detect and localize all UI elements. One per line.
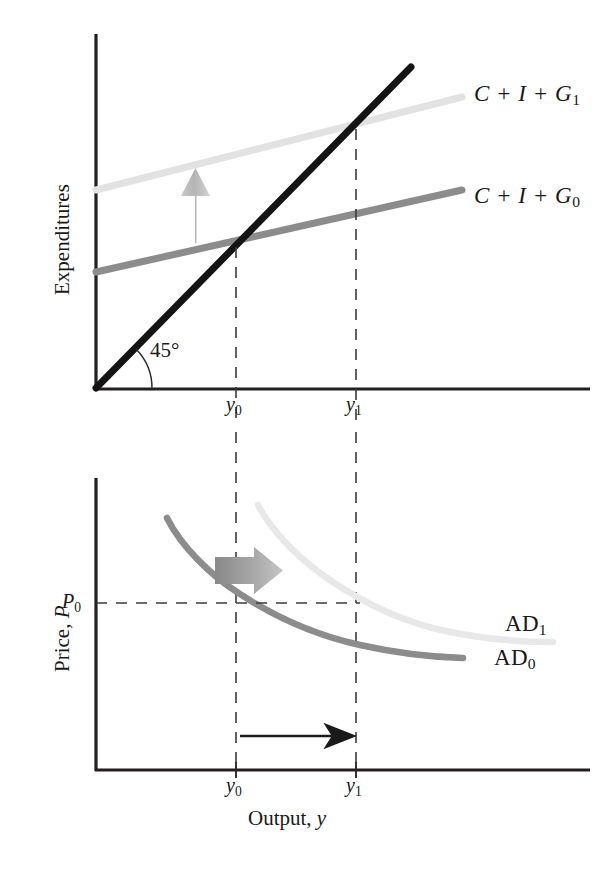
- top-tick-label-y1: y1: [346, 394, 362, 417]
- bottom-x-axis-title: Output, y: [248, 808, 326, 829]
- upward-shift-arrow: [181, 168, 210, 243]
- ad0-label: AD0: [494, 646, 536, 672]
- forty-five-degree-label: 45°: [150, 340, 179, 361]
- top-y-axis-title: Expenditures: [52, 184, 73, 295]
- bottom-tick-label-p0: P0: [62, 591, 81, 614]
- bottom-tick-label-y1: y1: [346, 775, 362, 798]
- economics-figure: Expenditures 45° C + I + G1 C + I + G0 y…: [0, 0, 614, 869]
- aggregate-demand-panel: [95, 432, 590, 778]
- c-i-g1-label: C + I + G1: [474, 82, 580, 108]
- top-tick-label-y0: y0: [226, 394, 242, 417]
- bottom-y-axis-title: Price, P: [52, 606, 73, 672]
- c-i-g1-line: [96, 97, 462, 190]
- ad0-curve: [167, 518, 463, 658]
- ad1-label: AD1: [505, 612, 547, 638]
- forty-five-degree-line: [96, 67, 411, 388]
- bottom-tick-label-y0: y0: [226, 775, 242, 798]
- figure-canvas: [0, 0, 614, 869]
- c-i-g0-label: C + I + G0: [474, 184, 580, 210]
